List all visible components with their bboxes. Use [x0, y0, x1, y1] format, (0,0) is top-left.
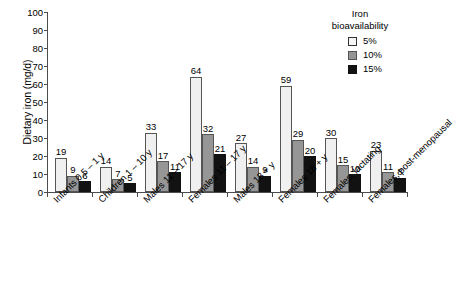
legend-entry: 5% [300, 36, 428, 46]
y-tick-label: 40 [7, 116, 43, 126]
bar-value-label: 21 [209, 144, 231, 154]
y-tick-label: 70 [7, 62, 43, 72]
bar-value-label: 27 [230, 133, 252, 143]
bar-value-label: 19 [50, 147, 72, 157]
y-tick-label: 0 [7, 188, 43, 198]
legend-entries: 5%10%15% [300, 36, 428, 74]
bar-value-label: 32 [197, 124, 219, 134]
y-tick-label: 80 [7, 44, 43, 54]
bar-value-label: 33 [140, 122, 162, 132]
legend-title-line2: bioavailability [300, 20, 420, 32]
legend-title: Iron bioavailability [300, 8, 428, 32]
chart-legend: Iron bioavailability 5%10%15% [300, 8, 428, 74]
legend-label: 5% [363, 36, 377, 46]
bar [280, 86, 292, 192]
legend-label: 10% [363, 50, 382, 60]
y-tick-label: 100 [7, 8, 43, 18]
y-tick-label: 60 [7, 80, 43, 90]
legend-entry: 10% [300, 50, 428, 60]
bar [124, 183, 136, 192]
bar-value-label: 30 [320, 128, 342, 138]
y-tick-label: 30 [7, 134, 43, 144]
bar [190, 77, 202, 192]
legend-swatch-icon [348, 51, 357, 60]
legend-entry: 15% [300, 64, 428, 74]
y-tick-label: 20 [7, 152, 43, 162]
legend-swatch-icon [348, 65, 357, 74]
legend-swatch-icon [348, 37, 357, 46]
y-tick-label: 50 [7, 98, 43, 108]
bar-value-label: 64 [185, 66, 207, 76]
x-axis-labels: Infants 0.5 – 1 yChildren 1 – 10 yMales … [47, 197, 433, 305]
y-tick-label: 90 [7, 26, 43, 36]
y-tick-label: 10 [7, 170, 43, 180]
bar-value-label: 17 [152, 151, 174, 161]
bar-value-label: 29 [287, 129, 309, 139]
legend-label: 15% [363, 64, 382, 74]
bar [79, 181, 91, 192]
bar-value-label: 59 [275, 75, 297, 85]
legend-title-line1: Iron [300, 8, 420, 20]
